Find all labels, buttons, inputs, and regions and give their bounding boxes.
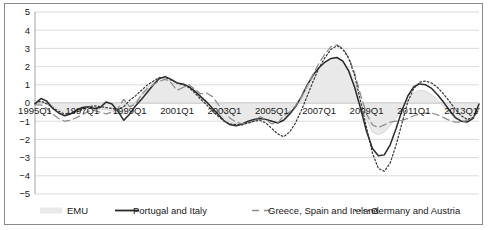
y-axis-tick-label: 4 xyxy=(25,25,30,36)
x-axis-tick-label: 2011Q1 xyxy=(397,105,430,116)
x-axis-tick-label: 2009Q1 xyxy=(350,105,384,116)
chart-frame: 543210−1−2−3−4−51995Q11997Q11999Q12001Q1… xyxy=(4,3,483,225)
x-axis-tick-label: 2003Q1 xyxy=(208,105,242,116)
legend-item[interactable]: Portugal and Italy xyxy=(115,205,207,216)
x-axis-tick-label: 1995Q1 xyxy=(18,105,52,116)
x-axis-tick-label: 1997Q1 xyxy=(65,105,99,116)
line-chart: 543210−1−2−3−4−51995Q11997Q11999Q12001Q1… xyxy=(5,4,484,226)
y-axis-tick-label: −1 xyxy=(19,116,30,127)
legend-item-label: EMU xyxy=(67,205,88,216)
chart-plot-area: 543210−1−2−3−4−51995Q11997Q11999Q12001Q1… xyxy=(5,4,484,226)
x-axis-tick-label: 1999Q1 xyxy=(113,105,147,116)
legend-item-label: Portugal and Italy xyxy=(133,205,207,216)
series-area-emu xyxy=(35,58,479,135)
y-axis-tick-label: −5 xyxy=(19,188,30,199)
x-axis-tick-label: 2013Q1 xyxy=(444,105,478,116)
x-axis-tick-label: 2001Q1 xyxy=(160,105,194,116)
legend-item-label: Germany and Austria xyxy=(371,205,461,216)
legend-item[interactable]: Germany and Austria xyxy=(355,205,461,216)
y-axis-tick-label: 2 xyxy=(25,61,30,72)
y-axis-tick-label: 3 xyxy=(25,43,30,54)
chart-legend: EMUPortugal and ItalyGreece, Spain and I… xyxy=(40,205,461,216)
y-axis-tick-label: −3 xyxy=(19,152,30,163)
legend-item[interactable]: EMU xyxy=(40,205,88,216)
legend-swatch-area xyxy=(40,208,62,214)
legend-item-label: Greece, Spain and Ireland xyxy=(268,205,379,216)
y-axis-tick-label: −4 xyxy=(19,170,30,181)
y-axis-tick-label: −2 xyxy=(19,134,30,145)
x-axis-tick-label: 2007Q1 xyxy=(302,105,336,116)
x-axis-tick-label: 2005Q1 xyxy=(255,105,289,116)
y-axis-tick-label: 1 xyxy=(25,79,30,90)
y-axis-tick-label: 5 xyxy=(25,6,30,17)
